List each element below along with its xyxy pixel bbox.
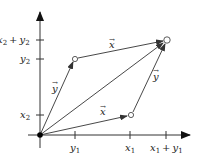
- label-x2: x2: [20, 109, 30, 122]
- point-sum: [164, 37, 170, 43]
- point-y: [72, 56, 77, 61]
- origin-point: [37, 132, 43, 138]
- label-vector-y-right: y →: [152, 67, 159, 82]
- vector-x-translated: [78, 41, 163, 58]
- vector-diagram: y1 x1 x1+y1 x2 y2 x2+y2 x → x → y → y →: [0, 0, 204, 165]
- label-vector-x-bottom: x →: [100, 103, 106, 117]
- svg-text:→: →: [100, 103, 106, 111]
- label-x1: x1: [125, 142, 135, 155]
- svg-text:→: →: [52, 79, 58, 87]
- label-vector-y-left: y →: [51, 79, 58, 94]
- label-vector-x-top: x →: [109, 36, 115, 50]
- vector-y-from-origin: [40, 62, 73, 135]
- svg-text:→: →: [109, 36, 115, 44]
- label-y2: y2: [19, 53, 30, 66]
- point-x: [128, 112, 133, 117]
- label-x2-plus-y2: x2+y2: [0, 34, 30, 47]
- svg-text:→: →: [153, 67, 159, 75]
- vector-y-translated: [133, 44, 165, 112]
- label-x1-plus-y1: x1+y1: [150, 142, 183, 155]
- label-y1: y1: [69, 142, 80, 155]
